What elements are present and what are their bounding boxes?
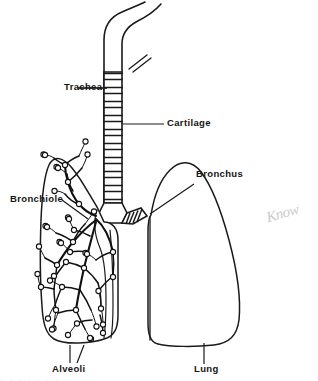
respiratory-system-diagram: Trachea Cartilage Bronchiole Bronchus Al… xyxy=(0,0,318,381)
right-lung xyxy=(148,163,240,347)
label-alveoli: Alveoli xyxy=(52,364,86,374)
label-lung: Lung xyxy=(194,364,219,374)
label-cartilage: Cartilage xyxy=(167,118,211,128)
trachea-group xyxy=(103,72,123,203)
anatomy-illustration xyxy=(0,0,318,381)
label-bronchiole: Bronchiole xyxy=(10,194,63,204)
label-trachea: Trachea xyxy=(64,82,102,92)
label-bronchus: Bronchus xyxy=(196,169,243,179)
leader-alveoli-b xyxy=(77,345,84,363)
bottom-edge-smudge: · · · · · · · · xyxy=(0,375,318,381)
